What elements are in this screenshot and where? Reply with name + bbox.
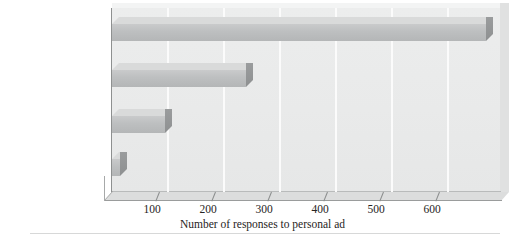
bar-top-face — [112, 17, 493, 24]
bottom-divider — [30, 233, 500, 234]
x-tick-label-600: 600 — [412, 203, 452, 215]
bar-front-face — [112, 116, 165, 133]
x-tick-mark-400 — [327, 192, 334, 200]
plot-floor-front-edge — [104, 200, 502, 201]
bar-chart: Beautiful waitress Average- looking fema… — [0, 0, 525, 236]
y-axis-corner-connector — [104, 191, 113, 201]
x-tick-mark-200 — [215, 192, 222, 200]
x-tick-label-200: 200 — [188, 203, 228, 215]
x-tick-mark-100 — [159, 192, 166, 200]
bar-top-face — [112, 109, 172, 116]
x-tick-mark-600 — [439, 192, 446, 200]
x-tick-mark-500 — [383, 192, 390, 200]
plot-wall-right — [500, 3, 509, 192]
x-tick-label-500: 500 — [356, 203, 396, 215]
bar-front-face — [112, 24, 486, 41]
x-axis-title: Number of responses to personal ad — [0, 218, 525, 230]
x-tick-label-100: 100 — [132, 203, 172, 215]
x-tick-label-400: 400 — [300, 203, 340, 215]
bar-front-face — [112, 159, 120, 176]
bar-front-face — [112, 70, 246, 87]
x-tick-label-300: 300 — [244, 203, 284, 215]
x-tick-mark-300 — [271, 192, 278, 200]
bar-top-face — [112, 63, 253, 70]
